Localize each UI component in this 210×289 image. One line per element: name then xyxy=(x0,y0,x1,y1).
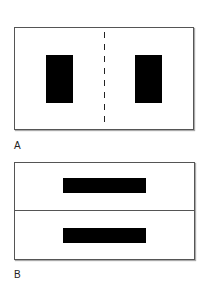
panel-b-horizontal-divider xyxy=(14,210,195,211)
panel-b-frame xyxy=(14,162,195,260)
panel-a-label: A xyxy=(14,140,21,151)
panel-b-top-bar xyxy=(63,178,146,193)
panel-a-right-block xyxy=(135,55,162,103)
panel-a-left-block xyxy=(46,55,73,103)
panel-a-frame xyxy=(14,27,194,130)
panel-b-label: B xyxy=(14,269,21,280)
panel-b-bottom-bar xyxy=(63,228,146,243)
